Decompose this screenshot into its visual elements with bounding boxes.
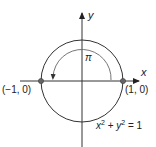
point-1-0-label: (1, 0) [125,84,148,95]
circle-equation: x2 + y2 = 1 [95,119,143,131]
point-1-0 [120,78,125,83]
equation-plus: + [105,120,116,131]
y-axis-label: y [87,9,95,21]
x-axis-label: x [140,66,147,78]
equation-rhs: = 1 [125,120,142,131]
point-neg1-0 [38,78,43,83]
point-neg1-0-label: (−1, 0) [2,84,31,95]
unit-circle-diagram: y x π (−1, 0) (1, 0) x2 + y2 = 1 [0,0,156,147]
pi-label: π [85,52,92,63]
